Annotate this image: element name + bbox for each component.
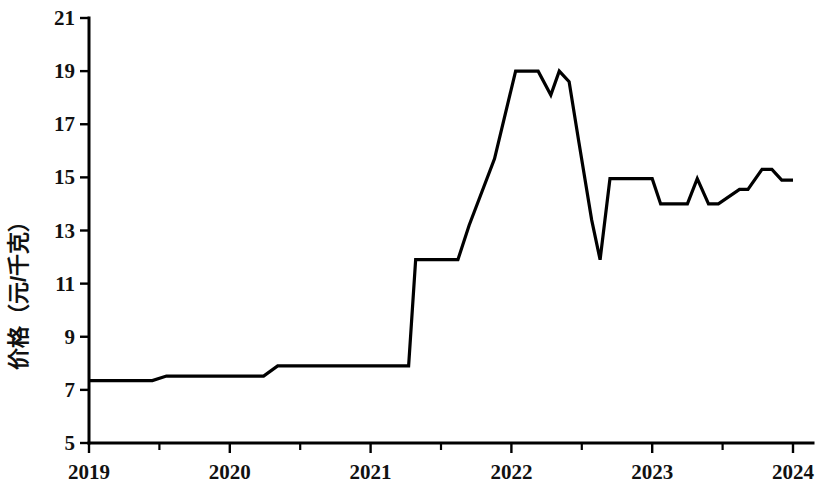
y-tick-label: 11 — [55, 272, 75, 296]
y-tick-label: 13 — [54, 219, 75, 243]
x-axis-tick-labels: 201920202021202220232024 — [68, 460, 815, 484]
price-line-chart: 价格（元/千克） 579111315171921 201920202021202… — [0, 0, 822, 488]
y-tick-label: 17 — [54, 112, 75, 136]
y-axis-tick-labels: 579111315171921 — [54, 6, 75, 455]
y-tick-label: 9 — [65, 325, 76, 349]
y-tick-label: 19 — [54, 59, 75, 83]
y-axis-label: 价格（元/千克） — [6, 210, 31, 370]
y-tick-label: 7 — [65, 378, 76, 402]
x-tick-label: 2021 — [350, 460, 392, 484]
y-tick-label: 15 — [54, 165, 75, 189]
x-tick-label: 2022 — [490, 460, 532, 484]
data-series-group — [89, 71, 793, 380]
chart-canvas: 价格（元/千克） 579111315171921 201920202021202… — [0, 0, 822, 488]
x-tick-label: 2024 — [772, 460, 815, 484]
x-tick-label: 2023 — [631, 460, 673, 484]
x-tick-label: 2020 — [209, 460, 251, 484]
series-line-price — [89, 71, 793, 380]
y-tick-label: 21 — [54, 6, 75, 30]
y-tick-label: 5 — [65, 431, 76, 455]
x-tick-label: 2019 — [68, 460, 110, 484]
